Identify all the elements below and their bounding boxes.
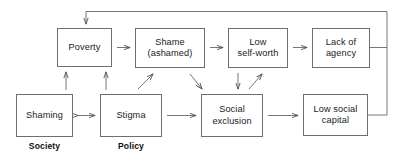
node-low-social-capital[interactable]: Low social capital (303, 94, 368, 136)
node-poverty[interactable]: Poverty (57, 28, 112, 67)
node-shame-label: Shame (ashamed) (148, 37, 193, 60)
group-label-society: Society (16, 141, 73, 151)
edge-shame-to-social-exclusion (190, 74, 202, 89)
edge-low-social-capital-connector (368, 48, 387, 116)
node-stigma-label: Stigma (116, 110, 145, 121)
node-low-self-worth[interactable]: Low self-worth (228, 28, 288, 68)
edge-social-exclusion-to-low-self-worth (249, 74, 262, 89)
node-lack-of-agency[interactable]: Lack of agency (312, 28, 370, 68)
node-shame[interactable]: Shame (ashamed) (135, 28, 205, 68)
group-label-policy: Policy (100, 141, 162, 151)
node-shaming[interactable]: Shaming (16, 94, 73, 137)
node-low-social-capital-label: Low social capital (314, 104, 358, 127)
edge-layer (0, 0, 402, 163)
node-shaming-label: Shaming (26, 110, 63, 121)
node-social-exclusion[interactable]: Social exclusion (201, 94, 263, 137)
edge-stigma-to-shame (138, 74, 153, 89)
node-lack-of-agency-label: Lack of agency (326, 37, 356, 60)
diagram-canvas: Poverty Shame (ashamed) Low self-worth L… (0, 0, 402, 163)
node-social-exclusion-label: Social exclusion (212, 104, 251, 127)
node-stigma[interactable]: Stigma (100, 94, 162, 137)
node-low-self-worth-label: Low self-worth (238, 37, 279, 60)
node-poverty-label: Poverty (69, 42, 101, 53)
